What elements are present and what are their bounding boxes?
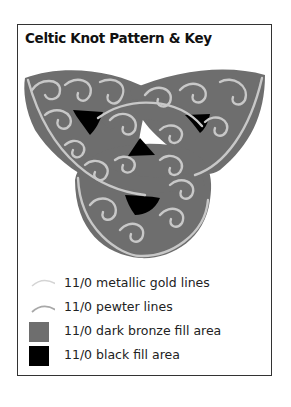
black-fill-swatch-icon — [29, 346, 49, 366]
diagram-title: Celtic Knot Pattern & Key — [25, 30, 212, 46]
legend-item-black-fill: 11/0 black fill area — [24, 344, 264, 368]
legend-item-bronze-fill: 11/0 dark bronze fill area — [24, 320, 264, 344]
pewter-line-icon — [27, 296, 55, 318]
legend-item-gold-lines: 11/0 metallic gold lines — [24, 272, 264, 296]
celtic-knot-diagram — [20, 60, 270, 270]
legend-item-pewter-lines: 11/0 pewter lines — [24, 296, 264, 320]
legend-label: 11/0 metallic gold lines — [64, 275, 210, 290]
legend-label: 11/0 pewter lines — [64, 299, 173, 314]
legend-label: 11/0 dark bronze fill area — [64, 323, 221, 338]
bronze-fill-swatch-icon — [29, 322, 49, 342]
knot-fill-areas — [24, 70, 265, 259]
legend-label: 11/0 black fill area — [64, 347, 180, 362]
gold-line-icon — [27, 272, 55, 294]
